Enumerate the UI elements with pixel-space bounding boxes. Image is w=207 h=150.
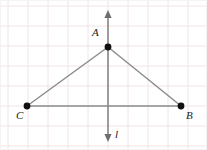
point-label-c: C	[16, 110, 23, 121]
geometry-figure: A C B l	[0, 0, 207, 150]
point-A	[105, 44, 112, 51]
point-label-a: A	[92, 27, 99, 38]
point-label-b: B	[186, 110, 193, 121]
line-label-l: l	[115, 129, 118, 140]
point-C	[24, 103, 31, 110]
point-B	[178, 103, 185, 110]
figure-canvas	[0, 0, 207, 150]
figure-background	[0, 0, 207, 150]
